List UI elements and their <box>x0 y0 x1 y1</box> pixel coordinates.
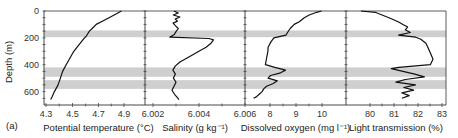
x-tick-label: 81 <box>389 109 399 119</box>
panel-label: (a) <box>6 120 18 131</box>
x-axis-label: Potential temperature (°C) <box>43 122 153 133</box>
y-tick-label: 400 <box>24 60 39 70</box>
x-tick-label: 4.5 <box>66 109 79 119</box>
x-tick-label: 83 <box>437 109 447 119</box>
x-tick-label: 4.7 <box>92 109 105 119</box>
x-tick-label: 6.006 <box>234 109 257 119</box>
depth-profile-figure: 4.34.54.74.9Potential temperature (°C)6.… <box>0 0 458 138</box>
x-axis-label: Dissolved oxygen (mg l⁻¹) <box>241 122 351 133</box>
x-tick-label: 4.3 <box>40 109 53 119</box>
x-tick-label: 9 <box>293 109 298 119</box>
y-tick-label: 600 <box>24 87 39 97</box>
x-tick-label: 80 <box>365 109 375 119</box>
depth-axis: 0200400600 <box>24 6 39 97</box>
x-axis-label: Light transmission (%) <box>349 122 443 133</box>
x-tick-label: 10 <box>317 109 327 119</box>
depth-axis-label: Depth (m) <box>3 41 14 83</box>
y-tick-label: 200 <box>24 33 39 43</box>
x-tick-label: 6.004 <box>188 109 211 119</box>
y-tick-label: 0 <box>34 6 39 16</box>
x-tick-label: 4.9 <box>118 109 131 119</box>
x-tick-label: 8 <box>267 109 272 119</box>
x-axis-label: Salinity (g kg⁻¹) <box>162 122 228 133</box>
x-tick-label: 6.002 <box>142 109 165 119</box>
x-tick-label: 82 <box>413 109 423 119</box>
